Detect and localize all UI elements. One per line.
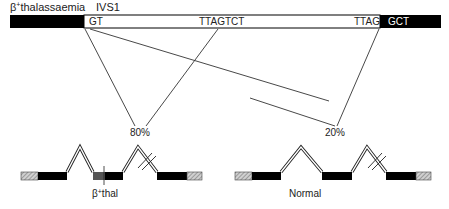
intron-label: IVS1 — [96, 2, 120, 13]
exon3 — [386, 172, 416, 180]
intron1-caret — [281, 147, 322, 172]
superscript-plus: + — [98, 188, 102, 195]
acceptor-site-label: TTAG — [354, 17, 380, 27]
exon-sequence-label: GCT — [388, 17, 409, 27]
exon1 — [252, 172, 281, 180]
donor-site-label: GT — [89, 17, 103, 27]
cryptic-site-label: TTAGTCT — [199, 17, 244, 27]
splicing-diagram — [0, 0, 449, 209]
thal-gene-label: β+thal — [92, 189, 118, 199]
gene-normal — [235, 147, 431, 180]
exon3 — [157, 172, 187, 180]
exon1 — [38, 172, 67, 180]
normal-splice-pct: 20% — [325, 128, 345, 138]
gene-thal — [21, 147, 202, 185]
mutant-exon-segment — [93, 172, 105, 180]
utr-left — [235, 172, 252, 180]
title-text: thalassaemia — [20, 1, 85, 13]
intron1-caret — [67, 147, 93, 172]
left-exon-block — [10, 15, 84, 28]
exon2 — [322, 172, 352, 180]
beta-symbol: β — [92, 188, 98, 199]
utr-right — [187, 172, 202, 180]
superscript-plus: + — [16, 1, 20, 8]
exon2 — [105, 172, 123, 180]
normal-gene-label: Normal — [289, 189, 321, 199]
splice-lines — [85, 29, 379, 126]
utr-left — [21, 172, 38, 180]
abnormal-splice-pct: 80% — [130, 128, 150, 138]
thal-text: thal — [102, 188, 118, 199]
diagram-title: β+thalassaemia — [10, 2, 85, 13]
utr-right — [416, 172, 431, 180]
